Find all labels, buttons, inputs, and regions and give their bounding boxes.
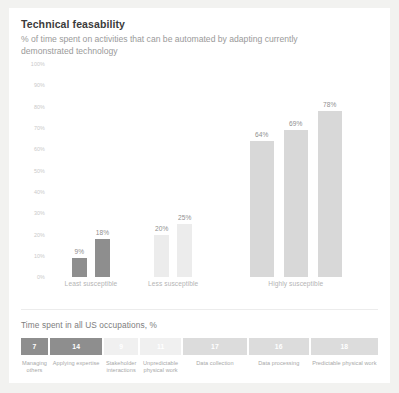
y-axis-tick: 100% (31, 61, 45, 67)
bar-group: 20%25% (133, 64, 214, 277)
bar (318, 111, 342, 277)
bar-value-label: 9% (75, 248, 85, 255)
bar-value-label: 69% (289, 120, 303, 127)
time-spent-segment[interactable]: 17Data collection (183, 338, 247, 375)
screenshot-root: Technical feasability % of time spent on… (0, 0, 399, 393)
chart-card: Technical feasability % of time spent on… (9, 8, 390, 383)
bar-slot: 20% (154, 64, 169, 277)
y-axis-tick: 60% (34, 146, 45, 152)
bar-group: 64%69%78% (214, 64, 379, 277)
y-axis-tick: 50% (34, 168, 45, 174)
bar-value-label: 78% (323, 101, 337, 108)
group-label: Least susceptible (49, 280, 133, 287)
bar (284, 130, 308, 277)
bar-slot: 9% (72, 64, 87, 277)
segment-label: Unpredictable physical work (140, 360, 181, 375)
bar-slot: 18% (95, 64, 110, 277)
time-spent-segment[interactable]: 18Predictable physical work (311, 338, 378, 375)
time-spent-section: Time spent in all US occupations, % 7Man… (21, 320, 378, 375)
segment-value: 14 (50, 338, 102, 355)
segment-value: 9 (104, 338, 138, 355)
bar-value-label: 64% (255, 131, 269, 138)
plot-area: 9%18%20%25%64%69%78% (49, 64, 378, 277)
segment-label: Applying expertise (50, 360, 102, 367)
time-spent-strip: 7Managing others14Applying expertise9Sta… (21, 338, 378, 375)
bar-groups: 9%18%20%25%64%69%78% (49, 64, 378, 277)
bar-slot: 25% (177, 64, 192, 277)
segment-value: 18 (311, 338, 378, 355)
bar-value-label: 25% (178, 214, 192, 221)
segment-value: 7 (21, 338, 48, 355)
bar (177, 224, 192, 277)
group-label: Less susceptible (133, 280, 214, 287)
segment-label: Stakeholder interactions (104, 360, 138, 375)
segment-label: Data processing (249, 360, 309, 367)
time-spent-segment[interactable]: 11Unpredictable physical work (140, 338, 181, 375)
bar-slot: 78% (318, 64, 342, 277)
page-subtitle: % of time spent on activities that can b… (21, 34, 321, 57)
y-axis: 100%90%80%70%60%50%40%30%20%10%0% (21, 64, 47, 277)
section-divider (21, 309, 378, 310)
segment-label: Predictable physical work (311, 360, 378, 367)
bar (95, 239, 110, 277)
group-label-row: Least susceptibleLess susceptibleHighly … (49, 280, 378, 287)
segment-label: Managing others (21, 360, 48, 375)
y-axis-tick: 90% (34, 82, 45, 88)
time-spent-segment[interactable]: 14Applying expertise (50, 338, 102, 375)
time-spent-segment[interactable]: 16Data processing (249, 338, 309, 375)
y-axis-tick: 40% (34, 189, 45, 195)
bar-slot: 64% (250, 64, 274, 277)
y-axis-tick: 0% (37, 274, 45, 280)
bar-value-label: 20% (155, 225, 169, 232)
time-spent-segment[interactable]: 9Stakeholder interactions (104, 338, 138, 375)
bar (72, 258, 87, 277)
y-axis-tick: 80% (34, 104, 45, 110)
segment-label: Data collection (183, 360, 247, 367)
bar-group: 9%18% (49, 64, 133, 277)
y-axis-tick: 20% (34, 232, 45, 238)
bar-slot: 69% (284, 64, 308, 277)
y-axis-tick: 30% (34, 210, 45, 216)
chart-plot: 100%90%80%70%60%50%40%30%20%10%0% 9%18%2… (21, 64, 378, 296)
time-spent-title: Time spent in all US occupations, % (21, 320, 378, 330)
segment-value: 16 (249, 338, 309, 355)
segment-value: 17 (183, 338, 247, 355)
bar (250, 141, 274, 277)
bar (154, 235, 169, 278)
y-axis-tick: 10% (34, 253, 45, 259)
segment-value: 11 (140, 338, 181, 355)
y-axis-tick: 70% (34, 125, 45, 131)
page-title: Technical feasability (21, 18, 378, 30)
bar-value-label: 18% (96, 229, 110, 236)
time-spent-segment[interactable]: 7Managing others (21, 338, 48, 375)
group-label: Highly susceptible (214, 280, 379, 287)
